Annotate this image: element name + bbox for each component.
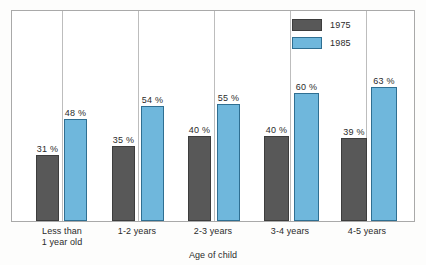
legend-label-1975: 1975	[330, 20, 351, 30]
bar-1985-less-than-1-year-old[interactable]: 48 %	[64, 119, 87, 221]
grouped-bar-chart: 31 % 48 % 35 % 54 % 40 % 55 % 40 % 60 % …	[0, 0, 426, 265]
bar-1985-3-4-years[interactable]: 60 %	[294, 93, 319, 221]
legend-swatch-icon-1975	[292, 19, 322, 31]
bar-value-label: 40 %	[189, 125, 210, 135]
x-tick-label-2-3-years: 2-3 years	[173, 226, 253, 237]
x-tick-label-line: Less than	[22, 226, 102, 237]
x-tick-label-line: 3-4 years	[250, 226, 330, 237]
legend-label-1985: 1985	[330, 38, 351, 48]
group-separator	[214, 11, 215, 221]
bar-value-label: 63 %	[373, 76, 394, 86]
bar-1985-1-2-years[interactable]: 54 %	[141, 106, 164, 221]
group-separator	[138, 11, 139, 221]
bar-value-label: 35 %	[113, 135, 134, 145]
bar-1975-2-3-years[interactable]: 40 %	[188, 136, 211, 221]
bar-1975-4-5-years[interactable]: 39 %	[341, 138, 367, 221]
bar-value-label: 54 %	[142, 95, 163, 105]
group-separator	[62, 11, 63, 221]
group-separator	[290, 11, 291, 221]
x-tick-label-4-5-years: 4-5 years	[327, 226, 407, 237]
legend-swatch-icon-1985	[292, 37, 322, 49]
bar-1975-3-4-years[interactable]: 40 %	[264, 136, 289, 221]
plot-area: 31 % 48 % 35 % 54 % 40 % 55 % 40 % 60 % …	[11, 10, 415, 222]
bar-1985-2-3-years[interactable]: 55 %	[217, 104, 240, 221]
bar-value-label: 48 %	[65, 108, 86, 118]
bar-1985-4-5-years[interactable]: 63 %	[371, 87, 397, 221]
bar-1975-1-2-years[interactable]: 35 %	[112, 146, 135, 221]
x-axis-title: Age of child	[0, 250, 426, 260]
legend-item-1985[interactable]: 1985	[292, 35, 382, 50]
legend-item-1975[interactable]: 1975	[292, 17, 382, 32]
bar-value-label: 31 %	[37, 144, 58, 154]
x-tick-label-3-4-years: 3-4 years	[250, 226, 330, 237]
x-tick-label-1-2-years: 1-2 years	[97, 226, 177, 237]
bar-value-label: 40 %	[266, 125, 287, 135]
bar-value-label: 60 %	[296, 82, 317, 92]
bar-1975-less-than-1-year-old[interactable]: 31 %	[36, 155, 59, 221]
x-tick-label-less-than-1-year-old: Less than 1 year old	[22, 226, 102, 248]
bar-value-label: 39 %	[343, 127, 364, 137]
x-tick-label-line: 1-2 years	[97, 226, 177, 237]
legend: 1975 1985	[292, 17, 382, 53]
x-tick-label-line: 1 year old	[22, 237, 102, 248]
x-tick-label-line: 4-5 years	[327, 226, 407, 237]
x-tick-label-line: 2-3 years	[173, 226, 253, 237]
bar-value-label: 55 %	[218, 93, 239, 103]
